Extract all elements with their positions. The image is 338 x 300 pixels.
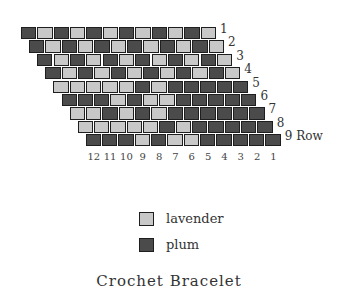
stitch-cell xyxy=(143,67,158,79)
stitch-cell xyxy=(208,121,223,133)
stitch-cell xyxy=(102,134,117,146)
stitch-cell xyxy=(110,121,125,133)
stitch-cell xyxy=(200,134,215,146)
stitch-cell xyxy=(184,54,199,66)
stitch-cell xyxy=(168,107,183,119)
column-label: 4 xyxy=(216,151,232,162)
stitch-cell xyxy=(160,67,175,79)
stitch-cell xyxy=(241,94,256,106)
stitch-cell xyxy=(78,94,93,106)
stitch-cell xyxy=(143,121,158,133)
stitch-cell xyxy=(168,81,183,93)
stitch-cell xyxy=(168,27,183,39)
column-label: 10 xyxy=(118,151,134,162)
column-label: 7 xyxy=(167,151,183,162)
stitch-cell xyxy=(127,40,142,52)
stitch-cell xyxy=(241,121,256,133)
stitch-cell xyxy=(208,94,223,106)
stitch-cell xyxy=(265,134,280,146)
stitch-cell xyxy=(184,107,199,119)
stitch-cell xyxy=(86,134,101,146)
stitch-cell xyxy=(94,121,109,133)
stitch-cell xyxy=(209,40,224,52)
column-label: 12 xyxy=(86,151,102,162)
stitch-cell xyxy=(225,94,240,106)
stitch-cell xyxy=(70,54,85,66)
stitch-cell xyxy=(62,67,77,79)
stitch-cell xyxy=(94,67,109,79)
column-label: 2 xyxy=(249,151,265,162)
row-label: 6 xyxy=(260,90,268,102)
column-label: 1 xyxy=(265,151,281,162)
stitch-cell xyxy=(62,94,77,106)
stitch-cell xyxy=(200,107,215,119)
stitch-cell xyxy=(176,121,191,133)
legend-label: lavender xyxy=(166,211,224,226)
plum-swatch-icon xyxy=(139,238,154,252)
stitch-cell xyxy=(119,107,134,119)
stitch-cell xyxy=(135,134,150,146)
stitch-cell xyxy=(118,134,133,146)
stitch-cell xyxy=(119,54,134,66)
stitch-cell xyxy=(78,121,93,133)
stitch-cell xyxy=(37,54,52,66)
stitch-cell xyxy=(176,40,191,52)
lavender-swatch-icon xyxy=(139,212,154,226)
stitch-cell xyxy=(54,27,69,39)
crochet-chart-grid: 123456789 Row121110987654321 xyxy=(0,0,338,160)
row-label: 8 xyxy=(277,117,285,129)
column-label: 9 xyxy=(135,151,151,162)
row-label: 1 xyxy=(220,23,228,35)
stitch-cell xyxy=(257,121,272,133)
stitch-cell xyxy=(127,94,142,106)
stitch-cell xyxy=(127,67,142,79)
stitch-cell xyxy=(192,94,207,106)
row-label: 5 xyxy=(252,77,260,89)
stitch-cell xyxy=(201,27,216,39)
stitch-cell xyxy=(78,40,93,52)
column-label: 3 xyxy=(233,151,249,162)
column-label: 8 xyxy=(151,151,167,162)
stitch-cell xyxy=(225,67,240,79)
column-label: 5 xyxy=(200,151,216,162)
stitch-cell xyxy=(135,81,150,93)
stitch-cell xyxy=(151,81,166,93)
stitch-cell xyxy=(249,107,264,119)
stitch-cell xyxy=(103,54,118,66)
stitch-cell xyxy=(53,81,68,93)
stitch-cell xyxy=(86,54,101,66)
stitch-cell xyxy=(37,27,52,39)
stitch-cell xyxy=(70,81,85,93)
stitch-cell xyxy=(111,40,126,52)
stitch-cell xyxy=(151,134,166,146)
stitch-cell xyxy=(127,121,142,133)
stitch-cell xyxy=(233,81,248,93)
stitch-cell xyxy=(94,94,109,106)
stitch-cell xyxy=(45,40,60,52)
stitch-cell xyxy=(176,94,191,106)
stitch-cell xyxy=(110,94,125,106)
stitch-cell xyxy=(119,81,134,93)
stitch-cell xyxy=(21,27,36,39)
stitch-cell xyxy=(102,81,117,93)
stitch-cell xyxy=(225,121,240,133)
stitch-cell xyxy=(167,134,182,146)
stitch-cell xyxy=(168,54,183,66)
stitch-cell xyxy=(135,107,150,119)
stitch-cell xyxy=(103,27,118,39)
stitch-cell xyxy=(152,27,167,39)
stitch-cell xyxy=(233,107,248,119)
stitch-cell xyxy=(217,107,232,119)
stitch-cell xyxy=(192,40,207,52)
stitch-cell xyxy=(45,67,60,79)
row-label: 9 Row xyxy=(285,130,323,142)
stitch-cell xyxy=(102,107,117,119)
stitch-cell xyxy=(86,107,101,119)
stitch-cell xyxy=(86,81,101,93)
stitch-cell xyxy=(86,27,101,39)
stitch-cell xyxy=(151,107,166,119)
stitch-cell xyxy=(192,67,207,79)
stitch-cell xyxy=(62,40,77,52)
stitch-cell xyxy=(209,67,224,79)
stitch-cell xyxy=(159,94,174,106)
